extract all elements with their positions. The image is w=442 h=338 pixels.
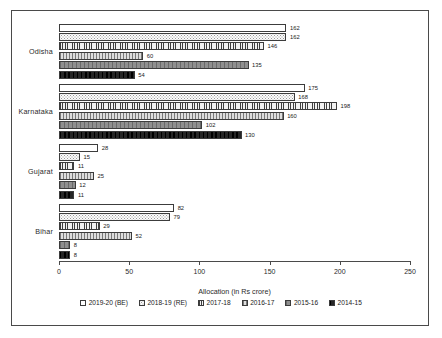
bar-value-label: 162 [289, 33, 300, 40]
bar-row: 11 [59, 191, 410, 199]
bar-value-label: 135 [252, 62, 263, 69]
bar[interactable] [59, 204, 174, 212]
bar-row: 198 [59, 102, 410, 110]
bar[interactable] [59, 84, 305, 92]
x-axis-line [59, 261, 410, 262]
legend-label: 2018-19 (RE) [147, 299, 187, 306]
bar[interactable] [59, 144, 98, 152]
x-tick-label: 0 [57, 268, 61, 275]
bar-value-label: 28 [101, 144, 108, 151]
bar-value-label: 168 [298, 93, 309, 100]
bar[interactable] [59, 222, 100, 230]
bar-value-label: 162 [289, 24, 300, 31]
bar-value-label: 175 [308, 84, 319, 91]
bar-row: 25 [59, 172, 410, 180]
bar-row: 15 [59, 153, 410, 161]
bar-row: 160 [59, 112, 410, 120]
bar[interactable] [59, 52, 143, 60]
bar[interactable] [59, 232, 132, 240]
bar[interactable] [59, 241, 70, 249]
legend-swatch [329, 300, 335, 306]
bar[interactable] [59, 153, 80, 161]
bar-value-label: 198 [340, 103, 351, 110]
bar-value-label: 25 [97, 172, 104, 179]
x-tick-mark [129, 261, 130, 265]
x-tick-mark [59, 261, 60, 265]
legend-item[interactable]: 2015-16 [285, 299, 318, 306]
bar[interactable] [59, 172, 94, 180]
legend-swatch [139, 300, 145, 306]
bar-row: 168 [59, 93, 410, 101]
bar[interactable] [59, 71, 135, 79]
x-tick-label: 100 [194, 268, 206, 275]
bar[interactable] [59, 42, 264, 50]
bar-row: 54 [59, 71, 410, 79]
bar-row: 60 [59, 52, 410, 60]
bar-value-label: 60 [146, 52, 153, 59]
bar-group: Gujarat281511251211 [59, 141, 410, 201]
bar[interactable] [59, 162, 74, 170]
bar-row: 130 [59, 131, 410, 139]
bar-group: Karnataka175168198160102130 [59, 81, 410, 141]
bar[interactable] [59, 24, 286, 32]
bar[interactable] [59, 102, 337, 110]
bar[interactable] [59, 213, 170, 221]
bar[interactable] [59, 121, 202, 129]
bar-value-label: 29 [103, 223, 110, 230]
bar[interactable] [59, 191, 74, 199]
legend-label: 2015-16 [294, 299, 318, 306]
bar-row: 52 [59, 232, 410, 240]
bar[interactable] [59, 131, 242, 139]
category-label: Odisha [29, 47, 53, 56]
bar-row: 146 [59, 42, 410, 50]
bar-group: Bihar8279295288 [59, 201, 410, 261]
bar-row: 28 [59, 144, 410, 152]
legend-label: 2017-18 [207, 299, 231, 306]
bar-value-label: 8 [73, 251, 77, 258]
x-tick-label: 250 [404, 268, 416, 275]
legend-swatch [80, 300, 86, 306]
bar-row: 82 [59, 204, 410, 212]
bar-value-label: 12 [79, 182, 86, 189]
legend-item[interactable]: 2016-17 [242, 299, 275, 306]
bars-layer: Odisha1621621466013554Karnataka175168198… [59, 21, 410, 261]
x-tick-mark [199, 261, 200, 265]
bar-row: 162 [59, 24, 410, 32]
legend-label: 2014-15 [338, 299, 362, 306]
legend-item[interactable]: 2018-19 (RE) [139, 299, 187, 306]
bar-value-label: 130 [245, 131, 256, 138]
chart-figure: Odisha1621621466013554Karnataka175168198… [11, 10, 429, 326]
bar-value-label: 82 [177, 204, 184, 211]
bar[interactable] [59, 251, 70, 259]
bar-value-label: 54 [138, 71, 145, 78]
category-label: Gujarat [28, 167, 53, 176]
bar-row: 12 [59, 181, 410, 189]
bar-row: 135 [59, 61, 410, 69]
bar[interactable] [59, 61, 249, 69]
bar-value-label: 146 [267, 43, 278, 50]
legend-swatch [198, 300, 204, 306]
x-tick-label: 50 [125, 268, 133, 275]
bar[interactable] [59, 33, 286, 41]
bar[interactable] [59, 112, 284, 120]
x-tick-label: 200 [334, 268, 346, 275]
bar-row: 175 [59, 84, 410, 92]
x-tick-mark [340, 261, 341, 265]
legend-item[interactable]: 2014-15 [329, 299, 362, 306]
legend-item[interactable]: 2019-20 (BE) [80, 299, 128, 306]
legend-swatch [242, 300, 248, 306]
bar-value-label: 52 [135, 232, 142, 239]
x-tick-mark [410, 261, 411, 265]
category-label: Bihar [35, 227, 53, 236]
bar-row: 102 [59, 121, 410, 129]
legend-item[interactable]: 2017-18 [198, 299, 231, 306]
bar-row: 8 [59, 251, 410, 259]
bar-value-label: 79 [173, 213, 180, 220]
bar-row: 29 [59, 222, 410, 230]
chart-legend: 2019-20 (BE)2018-19 (RE)2017-182016-1720… [12, 299, 430, 306]
x-axis-title: Allocation (in Rs crore) [59, 287, 410, 296]
plot-area: Odisha1621621466013554Karnataka175168198… [59, 21, 410, 289]
x-tick-mark [270, 261, 271, 265]
bar[interactable] [59, 181, 76, 189]
bar[interactable] [59, 93, 295, 101]
